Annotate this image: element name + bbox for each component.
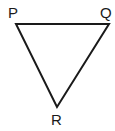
triangle-diagram: P Q R bbox=[0, 0, 115, 131]
triangle-pqr bbox=[16, 24, 109, 107]
vertex-label-q: Q bbox=[100, 4, 112, 21]
vertex-label-p: P bbox=[8, 4, 18, 21]
vertex-label-r: R bbox=[51, 111, 62, 128]
